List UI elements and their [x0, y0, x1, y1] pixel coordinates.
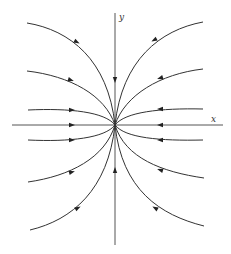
axes: x y: [12, 12, 223, 245]
y-axis-up-arrow-icon: [113, 167, 117, 173]
trajectory-right-lower-flat: [115, 125, 203, 140]
x-axis-right-arrow-icon: [69, 123, 75, 127]
trajectory-right-upper-flat: [115, 109, 203, 125]
trajectory-left-lower-flat: [28, 125, 115, 140]
y-axis-label: y: [118, 12, 125, 22]
phase-portrait-diagram: x y: [0, 0, 231, 254]
arrow-head-icon: [69, 138, 75, 142]
x-axis-left-arrow-icon: [157, 123, 163, 127]
trajectory-left-upper-flat: [28, 110, 115, 125]
arrow-head-icon: [73, 39, 80, 46]
x-axis-label: x: [211, 114, 216, 124]
arrow-head-icon: [69, 108, 75, 112]
y-axis-down-arrow-icon: [113, 77, 117, 83]
